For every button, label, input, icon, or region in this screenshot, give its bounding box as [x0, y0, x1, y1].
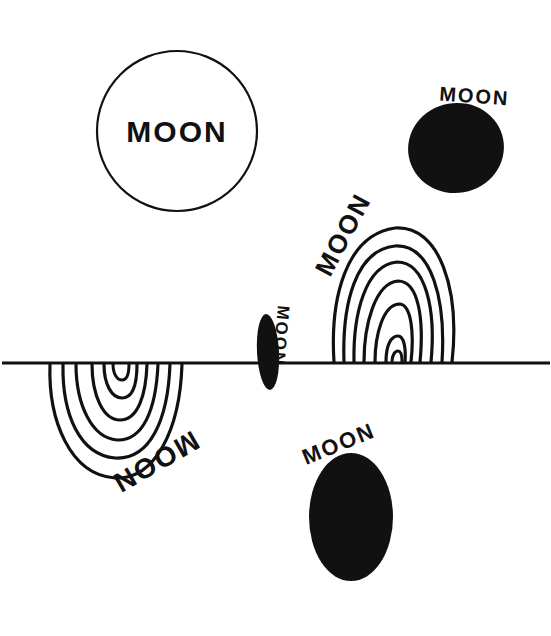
reflected-rainbow-moon: MOON	[50, 364, 205, 499]
moon-label: MOON	[269, 305, 293, 367]
thin-sliver-moon: MOON	[255, 305, 293, 391]
solid-dark-moon: MOON	[401, 83, 511, 201]
moon-label: MOON	[107, 425, 205, 499]
outline-full-moon: MOON	[97, 51, 257, 211]
moon-label: MOON	[126, 115, 227, 148]
moon-label: MOON	[309, 188, 377, 281]
low-dark-oval-moon: MOON	[299, 418, 393, 581]
rising-rainbow-moon: MOON	[309, 188, 454, 362]
moon-illustration: MOON MOON MOON MOON	[0, 0, 551, 636]
